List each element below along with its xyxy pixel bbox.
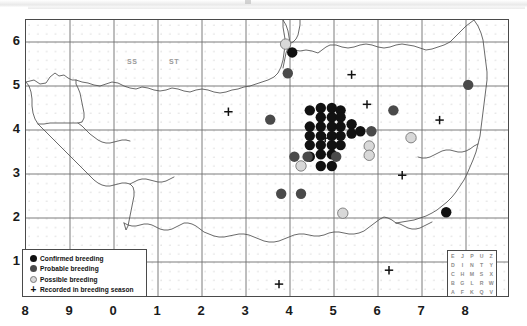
figure-page: 8 9 0 1 2 3 4 5 6 7 8 6 5 4 3 2 1 SS ST … — [0, 0, 527, 326]
record-symbol-dot — [316, 131, 326, 141]
grid-key-cell: S — [477, 269, 487, 278]
record-symbol-dot — [316, 112, 326, 122]
grid-key-cell: D — [448, 260, 458, 269]
record-symbol-dot — [327, 161, 337, 171]
confirmed-breeding-icon — [27, 255, 40, 262]
record-symbol-dot — [331, 151, 341, 161]
x-tick-10: 8 — [455, 303, 475, 318]
legend-item-recorded: + Recorded in breeding season — [27, 285, 143, 296]
legend-label-confirmed: Confirmed breeding — [40, 255, 104, 262]
grid-key-cell: N — [467, 260, 477, 269]
legend-label-possible: Possible breeding — [40, 276, 98, 283]
y-tick-1: 5 — [4, 77, 20, 92]
record-symbol-cross — [398, 171, 406, 179]
record-symbol-dot — [335, 121, 345, 131]
record-symbol-dot — [296, 161, 306, 171]
scan-artifact-band-2 — [28, 6, 525, 9]
grid-key-cell: E — [448, 251, 458, 260]
x-tick-0: 8 — [15, 303, 35, 318]
grid-key-cell: J — [458, 251, 468, 260]
record-symbol-dot — [302, 151, 312, 161]
x-tick-3: 1 — [147, 303, 167, 318]
grid-key-cell: G — [458, 278, 468, 287]
grid-key-cell: Q — [477, 287, 487, 296]
x-tick-1: 9 — [59, 303, 79, 318]
grid-key-cell: R — [477, 278, 487, 287]
record-symbol-dot — [316, 161, 326, 171]
record-symbol-dot — [289, 151, 299, 161]
record-symbol-dot — [327, 103, 337, 113]
y-tick-2: 4 — [4, 121, 20, 136]
record-symbol-dot — [276, 189, 286, 199]
legend-item-confirmed: Confirmed breeding — [27, 253, 143, 264]
x-tick-8: 6 — [367, 303, 387, 318]
x-tick-2: 0 — [103, 303, 123, 318]
record-symbol-cross — [435, 116, 443, 124]
grid-key-cell: T — [477, 260, 487, 269]
grid-key-cell: L — [467, 278, 477, 287]
grid-key-cell: K — [467, 287, 477, 296]
x-tick-7: 5 — [323, 303, 343, 318]
grid-square-label-st: ST — [169, 58, 179, 65]
record-symbol-dot — [346, 128, 356, 138]
grid-key-cell: V — [486, 287, 496, 296]
record-symbol-dot — [296, 189, 306, 199]
legend-label-probable: Probable breeding — [40, 265, 99, 272]
record-symbol-dot — [305, 140, 315, 150]
x-tick-5: 3 — [235, 303, 255, 318]
grid-key-cell: Y — [486, 260, 496, 269]
x-tick-6: 4 — [279, 303, 299, 318]
legend-item-possible: Possible breeding — [27, 274, 143, 285]
grid-key-cell: H — [458, 269, 468, 278]
y-tick-4: 2 — [4, 209, 20, 224]
record-symbol-dot — [366, 126, 376, 136]
record-symbol-dot — [364, 150, 374, 160]
record-symbol-dot — [316, 121, 326, 131]
record-symbol-dot — [305, 131, 315, 141]
grid-key-cell: X — [486, 269, 496, 278]
record-symbol-dot — [316, 149, 326, 159]
grid-key-cell: C — [448, 269, 458, 278]
record-symbol-dot — [338, 208, 348, 218]
record-symbol-dot — [305, 121, 315, 131]
legend-item-probable: Probable breeding — [27, 264, 143, 275]
record-symbol-dot — [280, 39, 290, 49]
record-symbol-cross — [224, 108, 232, 116]
grid-key-cell: U — [477, 251, 487, 260]
grid-letter-key: EJPUZDINTYCHMSXBGLRWAFKQV — [447, 250, 497, 297]
y-tick-3: 3 — [4, 165, 20, 180]
grid-key-cell: Z — [486, 251, 496, 260]
scan-artifact-tick — [245, 0, 251, 4]
record-symbol-dot — [265, 114, 275, 124]
record-symbol-cross — [385, 266, 393, 274]
record-symbol-dot — [346, 119, 356, 129]
x-tick-4: 2 — [191, 303, 211, 318]
y-tick-5: 1 — [4, 253, 20, 268]
probable-breeding-icon — [27, 265, 40, 272]
record-symbol-dot — [335, 140, 345, 150]
grid-key-cell: P — [467, 251, 477, 260]
legend: Confirmed breeding Probable breeding Pos… — [22, 249, 147, 297]
plus-cross-icon: + — [27, 286, 40, 293]
possible-breeding-icon — [27, 276, 40, 283]
record-symbol-cross — [347, 70, 355, 78]
y-tick-0: 6 — [4, 33, 20, 48]
record-symbol-dot — [355, 126, 365, 136]
grid-key-cell: W — [486, 278, 496, 287]
record-symbol-cross — [275, 280, 283, 288]
grid-key-cell: F — [458, 287, 468, 296]
record-symbol-dot — [388, 105, 398, 115]
record-symbol-dot — [463, 80, 473, 90]
record-symbol-cross — [363, 100, 371, 108]
record-symbol-dot — [316, 103, 326, 113]
legend-label-recorded: Recorded in breeding season — [40, 286, 134, 293]
grid-key-cell: M — [467, 269, 477, 278]
grid-key-cell: I — [458, 260, 468, 269]
record-symbol-dot — [335, 112, 345, 122]
record-symbol-dot — [441, 207, 451, 217]
grid-key-cell: A — [448, 287, 458, 296]
x-tick-9: 7 — [411, 303, 431, 318]
record-symbol-dot — [316, 140, 326, 150]
record-symbol-dot — [305, 105, 315, 115]
record-symbol-dot — [406, 132, 416, 142]
